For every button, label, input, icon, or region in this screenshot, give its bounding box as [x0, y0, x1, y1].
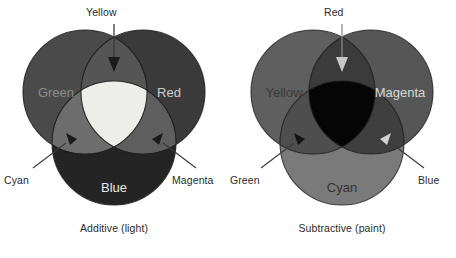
additive-label-red: Red	[157, 85, 181, 100]
panel-subtractive: Yellow Magenta Cyan Red Green Blue Subtr…	[228, 0, 456, 258]
subtractive-label-cyan: Cyan	[327, 180, 357, 195]
additive-label-green: Green	[38, 85, 74, 100]
additive-venn-diagram: Green Red Blue	[0, 0, 228, 258]
subtractive-callout-label-blue: Blue	[418, 174, 439, 186]
subtractive-label-yellow: Yellow	[265, 85, 303, 100]
subtractive-callout-label-green: Green	[230, 174, 260, 186]
additive-callout-label-yellow: Yellow	[86, 6, 117, 18]
additive-label-blue: Blue	[101, 180, 127, 195]
additive-caption: Additive (light)	[0, 222, 228, 234]
subtractive-callout-label-red: Red	[324, 6, 344, 18]
panel-additive: Green Red Blue Yellow Cyan Magenta Addit…	[0, 0, 228, 258]
figure-canvas: Green Red Blue Yellow Cyan Magenta Addit…	[0, 0, 456, 258]
additive-callout-label-cyan: Cyan	[4, 174, 29, 186]
subtractive-caption: Subtractive (paint)	[228, 222, 456, 234]
additive-callout-label-magenta: Magenta	[172, 174, 214, 186]
subtractive-label-magenta: Magenta	[375, 85, 426, 100]
subtractive-venn-diagram: Yellow Magenta Cyan	[228, 0, 456, 258]
